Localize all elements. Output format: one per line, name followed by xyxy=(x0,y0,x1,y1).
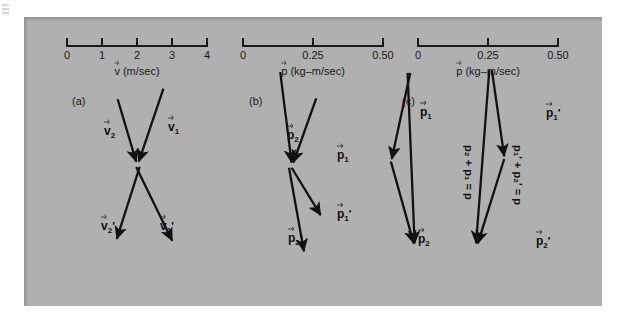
vector-v2-prime-arrow xyxy=(117,167,140,239)
label-symbol: p xyxy=(536,234,543,248)
label-symbol: p xyxy=(337,148,344,162)
label-symbol: v xyxy=(104,124,111,138)
label-c-p1-prime: p1′ xyxy=(546,106,560,122)
label-subscript: 1 xyxy=(344,155,348,164)
label-symbol: p xyxy=(288,231,295,245)
label-symbol: p xyxy=(287,128,294,142)
label-symbol: p xyxy=(337,207,344,221)
label-p2: p2 xyxy=(287,128,299,144)
label-subscript: 2 xyxy=(425,239,429,248)
vector-p-total-arrow xyxy=(408,73,415,243)
label-v2-prime: v2′ xyxy=(101,219,115,235)
label-symbol: p xyxy=(420,105,427,119)
vector-v2-arrow xyxy=(118,99,136,161)
vector-p2-arrow xyxy=(391,162,414,244)
label-c-p1: p1 xyxy=(420,105,432,121)
label-c-p2: p2 xyxy=(418,232,430,248)
label-v2: v2 xyxy=(104,124,115,140)
panel-c-left-triangle xyxy=(391,73,415,243)
label-symbol: v xyxy=(101,219,108,233)
label-subscript: 1 xyxy=(427,112,431,121)
panel-c-right-triangle xyxy=(476,70,504,243)
equation-momentum-before: p₂ + p₁ = p xyxy=(463,145,475,200)
label-symbol: v xyxy=(168,120,175,134)
label-prime: ′ xyxy=(171,220,174,232)
panel-b-vectors xyxy=(280,72,320,251)
label-prime: ′ xyxy=(558,107,561,119)
label-p1: p1 xyxy=(337,148,349,164)
label-prime: ′ xyxy=(300,232,303,244)
label-prime: ′ xyxy=(349,208,352,220)
vector-p-total-prime-arrow xyxy=(476,70,489,243)
vector-p2-arrow xyxy=(280,72,291,162)
vector-p1-prime-arrow xyxy=(492,70,504,156)
equation-momentum-after: p₁′ + p₂′ = p xyxy=(512,145,524,205)
label-subscript: 2 xyxy=(294,135,298,144)
label-prime: ′ xyxy=(112,220,115,232)
vector-v1-arrow xyxy=(139,89,164,162)
label-p1-prime: p1′ xyxy=(337,207,351,223)
label-subscript: 1 xyxy=(175,127,179,136)
label-v1: v1 xyxy=(168,120,179,136)
label-prime: ′ xyxy=(548,235,551,247)
label-subscript: 2 xyxy=(111,131,115,140)
label-symbol: p xyxy=(546,106,553,120)
label-c-p2-prime: p2′ xyxy=(536,234,550,250)
label-v1-prime: v1′ xyxy=(160,219,174,235)
figure-root: 0 1 2 3 4 v (m/sec) 0 0.25 0.50 p (kg–m/… xyxy=(0,0,626,329)
label-symbol: p xyxy=(418,232,425,246)
label-symbol: v xyxy=(160,219,167,233)
label-p2-prime: p2′ xyxy=(288,231,302,247)
